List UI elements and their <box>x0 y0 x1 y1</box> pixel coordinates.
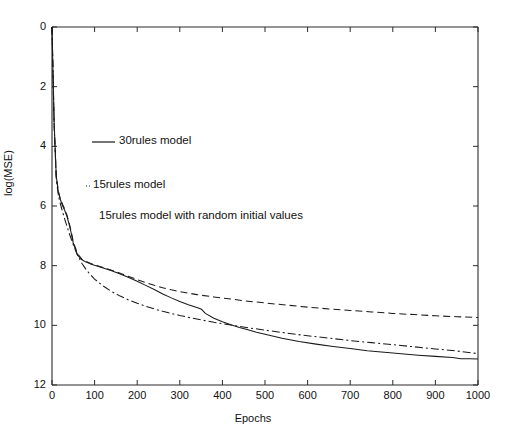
y-tick-label: 2 <box>10 80 46 92</box>
y-tick-label: 10 <box>10 318 46 330</box>
x-tick-label: 1000 <box>448 389 506 401</box>
x-axis-ticks <box>52 27 478 385</box>
legend-entry-15rules-random: 15rules model with random initial values <box>99 208 303 221</box>
legend-entry-30rules: 30rules model <box>119 133 191 146</box>
legend-label-0: 30rules model <box>119 134 191 146</box>
y-tick-label: 6 <box>10 199 46 211</box>
legend-label-1: 15rules model <box>93 178 165 190</box>
legend-entry-15rules: 15rules model <box>93 177 165 190</box>
x-axis-label: Epochs <box>0 412 506 424</box>
series-line-0 <box>52 27 478 359</box>
y-tick-label: 0 <box>10 20 46 32</box>
data-series-group <box>52 27 478 359</box>
y-tick-label: 12 <box>10 378 46 390</box>
y-axis-label: log(MSE) <box>2 150 14 196</box>
series-line-2 <box>52 27 478 354</box>
y-axis-ticks <box>52 27 478 385</box>
legend-label-2: 15rules model with random initial values <box>99 209 303 221</box>
series-line-1 <box>52 27 478 318</box>
plot-axes <box>52 27 478 385</box>
y-tick-label: 8 <box>10 259 46 271</box>
y-tick-label: 4 <box>10 139 46 151</box>
